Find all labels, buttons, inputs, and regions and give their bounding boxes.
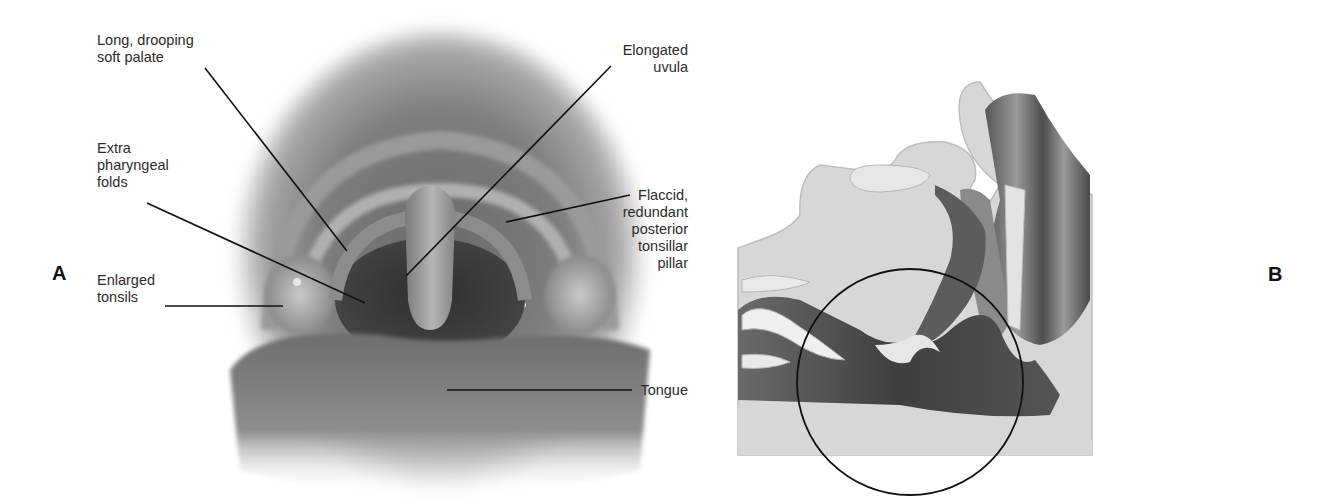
panel-letter-a: A: [52, 262, 66, 285]
label-tonsillar-pillar: Flaccid, redundant posterior tonsillar p…: [590, 187, 688, 272]
panel-letter-b: B: [1268, 263, 1282, 286]
label-pharyngeal-folds: Extra pharyngeal folds: [97, 140, 169, 191]
label-tongue: Tongue: [590, 382, 688, 399]
label-enlarged-tonsils: Enlarged tonsils: [97, 272, 155, 306]
label-elongated-uvula: Elongated uvula: [590, 42, 688, 76]
oral-cavity-illustration: [230, 30, 650, 495]
label-soft-palate: Long, drooping soft palate: [97, 32, 194, 66]
sagittal-airway-illustration: [738, 82, 1092, 495]
